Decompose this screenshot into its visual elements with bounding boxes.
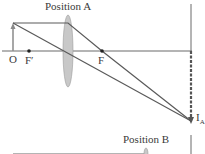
focal-point-right [100,49,104,53]
label-object: O [9,54,17,65]
focal-point-left [27,49,31,53]
lens-b [144,148,148,154]
ray-center [13,23,191,121]
lens-ray-diagram [0,0,205,154]
label-image: IA [196,112,205,123]
label-focal-right: F [98,55,104,66]
label-focal-left: F′ [25,55,34,66]
label-position-b: Position B [123,134,169,145]
label-position-a: Position A [45,1,91,12]
image-subscript: A [200,118,205,126]
